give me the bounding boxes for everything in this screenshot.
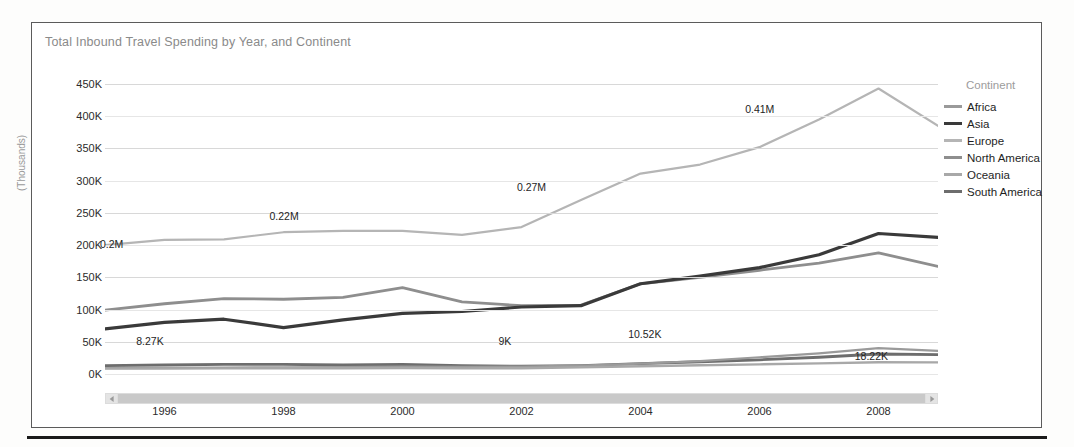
legend-title: Continent — [966, 79, 1074, 91]
plot-area: 0.2M0.22M0.27M0.41M8.27K9K10.52K18.22K — [105, 84, 938, 374]
y-axis-tick-label: 250K — [48, 207, 102, 219]
legend-item-africa[interactable]: Africa — [944, 98, 1074, 115]
horizontal-scrollbar[interactable] — [105, 393, 938, 404]
gridline — [105, 277, 938, 278]
x-axis-tick-label: 2004 — [628, 405, 652, 417]
legend-color-swatch — [944, 173, 962, 176]
legend-item-asia[interactable]: Asia — [944, 115, 1074, 132]
x-axis-tick-label: 2002 — [509, 405, 533, 417]
y-axis-tick-label: 300K — [48, 175, 102, 187]
data-point-label: 0.41M — [745, 103, 774, 115]
chart-title: Total Inbound Travel Spending by Year, a… — [45, 35, 351, 49]
scroll-right-arrow-icon[interactable] — [926, 394, 937, 403]
gridline — [105, 245, 938, 246]
y-axis-tick-label: 200K — [48, 239, 102, 251]
x-axis-tick-label: 2008 — [866, 405, 890, 417]
data-point-label: 0.27M — [517, 181, 546, 193]
data-point-label: 0.2M — [100, 238, 123, 250]
y-axis-tick-label: 350K — [48, 142, 102, 154]
y-axis-tick-label: 50K — [48, 336, 102, 348]
legend-item-label: Asia — [967, 118, 989, 130]
x-axis-tick-label: 2000 — [390, 405, 414, 417]
y-axis-title: (Thousands) — [16, 135, 27, 191]
data-point-label: 0.22M — [270, 210, 299, 222]
y-axis-tick-label: 100K — [48, 304, 102, 316]
gridline — [105, 310, 938, 311]
legend-item-label: North America — [967, 152, 1040, 164]
series-line — [105, 253, 938, 310]
legend: Continent AfricaAsiaEuropeNorth AmericaO… — [944, 79, 1074, 200]
legend-item-label: Oceania — [967, 169, 1010, 181]
legend-color-swatch — [944, 139, 962, 142]
y-axis-tick-label: 0K — [48, 368, 102, 380]
legend-color-swatch — [944, 156, 962, 159]
series-line — [105, 234, 938, 329]
gridline — [105, 116, 938, 117]
legend-color-swatch — [944, 190, 962, 193]
y-axis-tick-label: 150K — [48, 271, 102, 283]
data-point-label: 9K — [498, 335, 511, 347]
legend-item-oceania[interactable]: Oceania — [944, 166, 1074, 183]
data-point-label: 8.27K — [136, 335, 163, 347]
legend-item-label: South America — [967, 186, 1042, 198]
y-axis-tick-label: 400K — [48, 110, 102, 122]
x-axis-tick-label: 2006 — [747, 405, 771, 417]
legend-items: AfricaAsiaEuropeNorth AmericaOceaniaSout… — [944, 98, 1074, 200]
bottom-divider — [27, 436, 1047, 439]
legend-item-label: Europe — [967, 135, 1004, 147]
legend-item-label: Africa — [967, 101, 996, 113]
legend-color-swatch — [944, 105, 962, 108]
gridline — [105, 342, 938, 343]
legend-item-south-america[interactable]: South America — [944, 183, 1074, 200]
legend-color-swatch — [944, 122, 962, 125]
chart-container: Total Inbound Travel Spending by Year, a… — [31, 22, 1042, 428]
series-lines — [105, 84, 938, 374]
gridline — [105, 84, 938, 85]
scrollbar-thumb[interactable] — [117, 394, 926, 403]
x-axis-tick-label: 1998 — [271, 405, 295, 417]
series-line — [105, 89, 938, 246]
gridline — [105, 213, 938, 214]
data-point-label: 10.52K — [628, 328, 661, 340]
gridline — [105, 148, 938, 149]
gridline — [105, 374, 938, 375]
data-point-label: 18.22K — [855, 350, 888, 362]
legend-item-europe[interactable]: Europe — [944, 132, 1074, 149]
x-axis-tick-label: 1996 — [152, 405, 176, 417]
legend-item-north-america[interactable]: North America — [944, 149, 1074, 166]
x-axis-tick-labels: 1996199820002002200420062008 — [105, 405, 938, 425]
scroll-left-arrow-icon[interactable] — [106, 394, 117, 403]
y-axis-tick-label: 450K — [48, 78, 102, 90]
y-axis-tick-labels: 450K400K350K300K250K200K150K100K50K0K — [40, 84, 102, 374]
